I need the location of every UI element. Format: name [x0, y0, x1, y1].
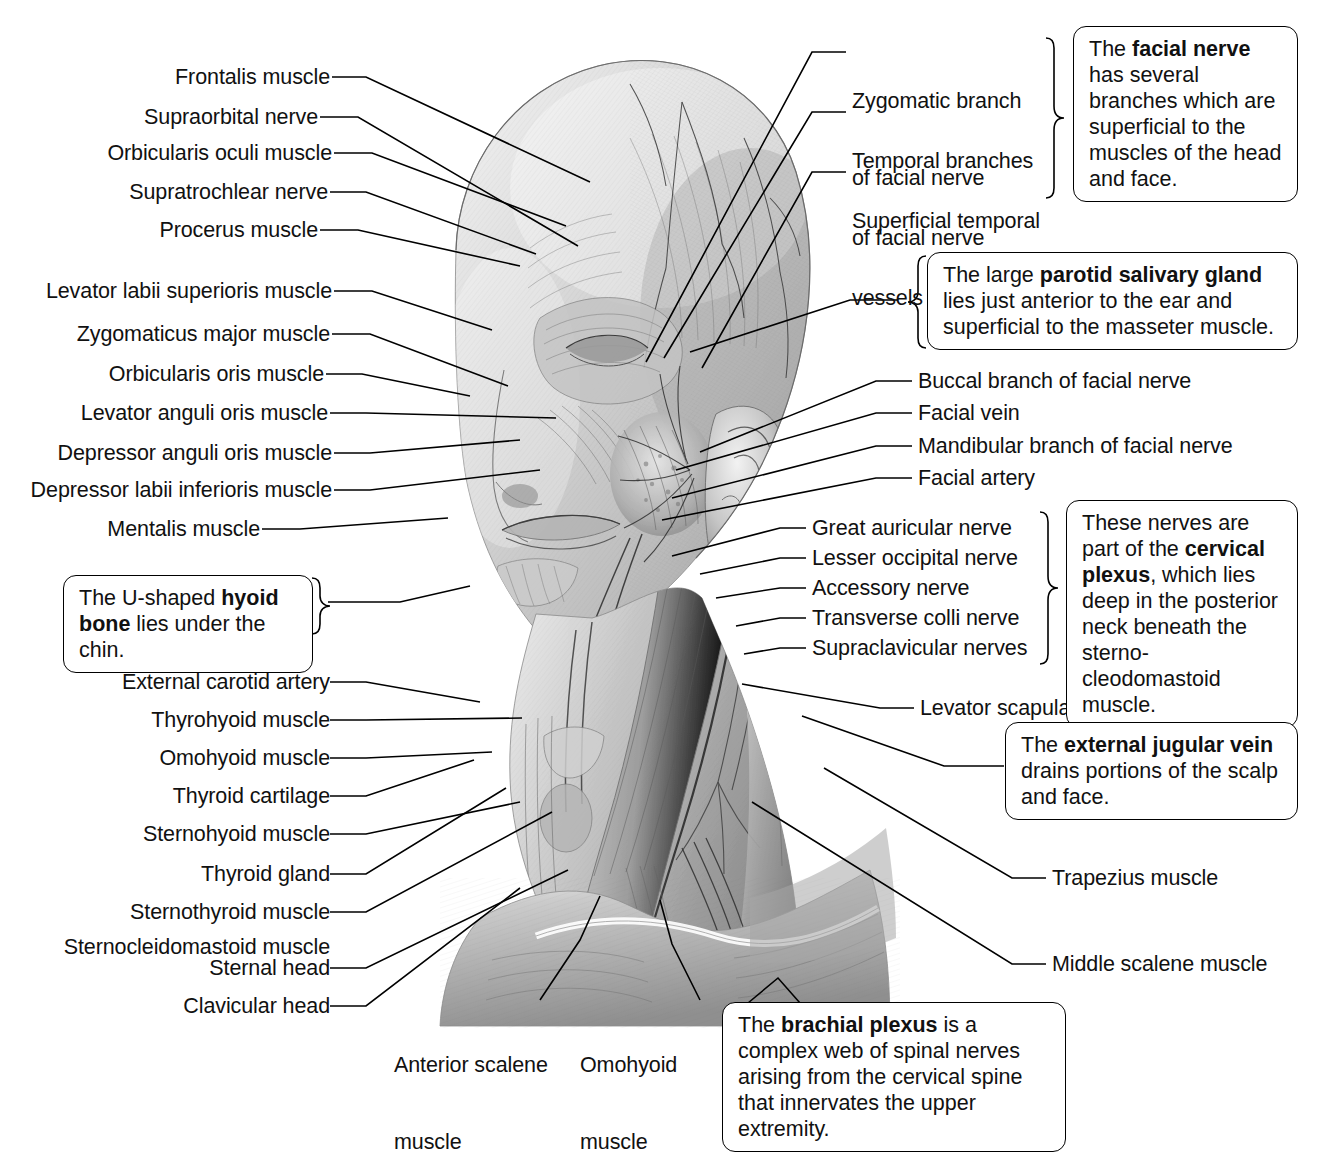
- facial-nerve-callout: The facial nerve has several branches wh…: [1073, 26, 1298, 202]
- label-zygomaticus-major-muscle: Zygomaticus major muscle: [10, 322, 330, 348]
- brachial-plexus-callout: The brachial plexus is a complex web of …: [722, 1002, 1066, 1152]
- label-supraorbital-nerve: Supraorbital nerve: [20, 105, 318, 131]
- label-levator-anguli-oris-muscle: Levator anguli oris muscle: [10, 401, 328, 427]
- brachial-plexus-callout-term: brachial plexus: [781, 1013, 938, 1037]
- external-jugular-callout-post: drains portions of the scalp and face.: [1021, 759, 1278, 809]
- label-sternal-head: Sternal head: [20, 956, 330, 982]
- label-omohyoid-muscle-bottom-line2: muscle: [580, 1130, 740, 1156]
- label-sternothyroid-muscle: Sternothyroid muscle: [20, 900, 330, 926]
- label-orbicularis-oculi-muscle: Orbicularis oculi muscle: [20, 141, 332, 167]
- label-depressor-anguli-oris-muscle: Depressor anguli oris muscle: [10, 441, 332, 467]
- label-orbicularis-oris-muscle: Orbicularis oris muscle: [10, 362, 324, 388]
- label-omohyoid-muscle: Omohyoid muscle: [20, 746, 330, 772]
- parotid-callout-term: parotid salivary gland: [1040, 263, 1262, 287]
- label-trapezius-muscle: Trapezius muscle: [1052, 866, 1322, 892]
- facial-nerve-callout-pre: The: [1089, 37, 1132, 61]
- label-omohyoid-muscle-bottom-line1: Omohyoid: [580, 1053, 740, 1079]
- label-great-auricular-nerve: Great auricular nerve: [812, 516, 1048, 542]
- label-frontalis-muscle: Frontalis muscle: [20, 65, 330, 91]
- hyoid-bone-callout: The U-shaped hyoid bone lies under the c…: [63, 575, 313, 673]
- cranium-region: [440, 58, 860, 638]
- label-facial-artery: Facial artery: [918, 466, 1298, 492]
- cervical-plexus-callout: These nerves are part of the cervical pl…: [1066, 500, 1298, 728]
- label-external-carotid-artery: External carotid artery: [20, 670, 330, 696]
- facial-nerve-callout-post: has several branches which are superfici…: [1089, 63, 1281, 191]
- brace-hyoid-callout: [312, 578, 330, 634]
- label-anterior-scalene-muscle-line1: Anterior scalene: [394, 1053, 574, 1079]
- label-transverse-colli-nerve: Transverse colli nerve: [812, 606, 1048, 632]
- label-thyroid-cartilage: Thyroid cartilage: [20, 784, 330, 810]
- label-procerus-muscle: Procerus muscle: [20, 218, 318, 244]
- label-superficial-temporal-vessels-and-nerve-line1: Superficial temporal: [852, 209, 1066, 235]
- external-jugular-vein-callout: The external jugular vein drains portion…: [1005, 722, 1298, 820]
- facial-nerve-callout-term: facial nerve: [1132, 37, 1250, 61]
- label-mandibular-branch-of-facial-nerve: Mandibular branch of facial nerve: [918, 434, 1308, 460]
- label-lesser-occipital-nerve: Lesser occipital nerve: [812, 546, 1048, 572]
- label-accessory-nerve: Accessory nerve: [812, 576, 1048, 602]
- external-jugular-callout-term: external jugular vein: [1064, 733, 1273, 757]
- label-thyroid-gland: Thyroid gland: [20, 862, 330, 888]
- label-mentalis-muscle: Mentalis muscle: [10, 517, 260, 543]
- label-supraclavicular-nerves: Supraclavicular nerves: [812, 636, 1048, 662]
- parotid-salivary-gland-callout: The large parotid salivary gland lies ju…: [927, 252, 1298, 350]
- label-facial-vein: Facial vein: [918, 401, 1298, 427]
- brachial-plexus-callout-pre: The: [738, 1013, 781, 1037]
- parotid-callout-post: lies just anterior to the ear and superf…: [943, 289, 1274, 339]
- label-anterior-scalene-muscle-line2: muscle: [394, 1130, 574, 1156]
- hyoid-callout-pre: The U-shaped: [79, 586, 221, 610]
- label-levator-labii-superioris-muscle: Levator labii superioris muscle: [10, 279, 332, 305]
- label-sternohyoid-muscle: Sternohyoid muscle: [20, 822, 330, 848]
- label-depressor-labii-inferioris-muscle: Depressor labii inferioris muscle: [6, 478, 332, 504]
- label-middle-scalene-muscle: Middle scalene muscle: [1052, 952, 1322, 978]
- external-jugular-callout-pre: The: [1021, 733, 1064, 757]
- parotid-callout-pre: The large: [943, 263, 1040, 287]
- label-clavicular-head: Clavicular head: [20, 994, 330, 1020]
- label-thyrohyoid-muscle: Thyrohyoid muscle: [20, 708, 330, 734]
- label-supratrochlear-nerve: Supratrochlear nerve: [20, 180, 328, 206]
- label-buccal-branch-of-facial-nerve: Buccal branch of facial nerve: [918, 369, 1298, 395]
